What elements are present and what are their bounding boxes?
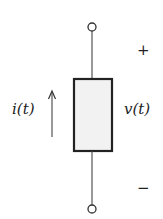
current-arrow-icon — [49, 91, 56, 137]
plus-sign: + — [137, 41, 150, 59]
minus-sign: − — [137, 179, 150, 197]
bottom-terminal — [88, 205, 96, 213]
current-label: i(t) — [12, 100, 35, 118]
circuit-element-box — [74, 79, 112, 151]
circuit-diagram: i(t) v(t) + − — [0, 0, 163, 219]
top-terminal — [88, 23, 96, 31]
voltage-label: v(t) — [124, 100, 150, 118]
